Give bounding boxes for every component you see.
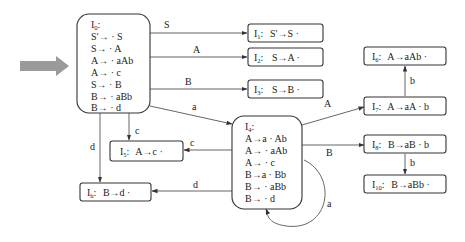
- edge-label: c: [135, 125, 140, 136]
- lr0-automaton: S A B a c d A B c d a b b I0: S′→ · S S→…: [0, 0, 465, 242]
- svg-text:I2: S→A ·: I2: S→A ·: [254, 52, 300, 64]
- item: S′→ · S: [91, 31, 123, 42]
- state-I9: Ih: B→d ·: [80, 183, 151, 201]
- edge-label: a: [327, 198, 332, 209]
- edge-label: b: [410, 75, 415, 86]
- svg-text:I5: A→c ·: I5: A→c ·: [120, 146, 163, 158]
- svg-text:I3: S→B ·: I3: S→B ·: [254, 84, 300, 96]
- svg-text:I7: A→aA · b: I7: A→aA · b: [372, 101, 429, 113]
- edge-label: A: [324, 98, 332, 109]
- state-I7: I7: A→aA · b: [364, 97, 446, 115]
- start-arrow-icon: [20, 56, 69, 76]
- item: S→ · A: [91, 43, 122, 54]
- state-I2: I2: S→A ·: [248, 48, 323, 66]
- item: B→ · d: [91, 102, 121, 113]
- item: B→ · aBb: [91, 91, 132, 102]
- edge-label: a: [192, 101, 197, 112]
- state-I4: I4: A→a · Ab A→ · aAb A→ · c B→a · Bb B→…: [232, 116, 302, 209]
- state-I10: I10: B→aBb ·: [364, 175, 446, 193]
- state-I1: I1: S′→S ·: [248, 24, 323, 42]
- item: B→ · aBb: [245, 181, 286, 192]
- svg-text:I6: A→aAb ·: I6: A→aAb ·: [372, 51, 427, 63]
- svg-text:Ih: B→d ·: Ih: B→d ·: [87, 187, 130, 199]
- item: A→a · Ab: [245, 133, 287, 144]
- item: S→ · B: [91, 79, 122, 90]
- state-I0: I0: S′→ · S S→ · A A→ · aAb A→ · c S→ · …: [77, 14, 150, 113]
- edge-label: A: [193, 44, 201, 55]
- edge-label: d: [193, 179, 198, 190]
- state-I6: I6: A→aAb ·: [364, 47, 446, 65]
- item: A→ · c: [245, 157, 276, 168]
- item: A→ · aAb: [91, 55, 133, 66]
- svg-text:I8: B→aB · b: I8: B→aB · b: [372, 139, 429, 151]
- edge-label: B: [185, 76, 192, 87]
- edge-label: d: [90, 141, 95, 152]
- state-I8: I8: B→aB · b: [364, 135, 446, 153]
- state-I3: I3: S→B ·: [248, 80, 323, 98]
- svg-text:I1: S′→S ·: I1: S′→S ·: [254, 28, 299, 40]
- edge-I0-I4: [150, 106, 232, 124]
- item: B→ · d: [245, 193, 275, 204]
- item: A→ · c: [91, 67, 122, 78]
- item: B→a · Bb: [245, 169, 286, 180]
- edge-I4-I7: [302, 107, 364, 125]
- state-I5: I5: A→c ·: [110, 141, 183, 161]
- edge-label: B: [326, 147, 333, 158]
- item: A→ · aAb: [245, 145, 287, 156]
- edge-label: b: [410, 157, 415, 168]
- edge-label: c: [190, 137, 195, 148]
- edge-label: S: [164, 19, 170, 30]
